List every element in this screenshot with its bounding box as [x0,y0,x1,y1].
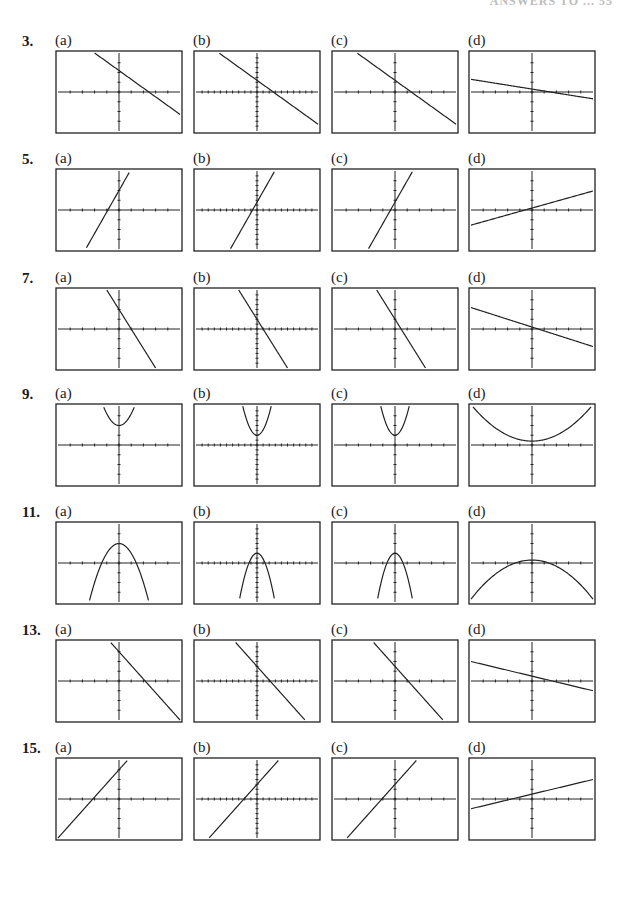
panel-label: (d) [468,740,486,755]
graph-window [193,639,321,723]
graph-panel: (a) [55,151,185,257]
problem-row: 7.(a)(b)(c)(d) [0,270,621,380]
graph-panel: (d) [468,151,598,257]
panel-label: (b) [193,740,211,755]
panel-label: (c) [331,270,348,285]
graph-panel: (c) [331,270,461,376]
panel-label: (c) [331,622,348,637]
graph-panel: (d) [468,386,598,492]
panel-label: (b) [193,33,211,48]
graph-panel: (d) [468,740,598,846]
panel-label: (a) [55,622,72,637]
graph-window [55,403,183,487]
panel-label: (b) [193,504,211,519]
panel-label: (c) [331,740,348,755]
panel-label: (b) [193,270,211,285]
graph-panel: (a) [55,740,185,846]
graph-panel: (d) [468,504,598,610]
graph-panel: (d) [468,622,598,728]
graph-panel: (c) [331,622,461,728]
panel-label: (d) [468,151,486,166]
graph-window [331,639,459,723]
panel-label: (a) [55,151,72,166]
graph-window [468,287,596,371]
panel-label: (d) [468,270,486,285]
graph-window [55,50,183,134]
graph-panel: (b) [193,151,323,257]
panel-label: (d) [468,622,486,637]
graph-window [331,403,459,487]
graph-window [331,521,459,605]
graph-window [193,403,321,487]
graph-window [193,287,321,371]
graph-panel: (b) [193,504,323,610]
graph-window [468,757,596,841]
problem-row: 15.(a)(b)(c)(d) [0,740,621,850]
graph-panel: (c) [331,740,461,846]
graph-window [468,50,596,134]
problem-number: 11. [22,504,40,521]
graph-window [193,521,321,605]
graph-window [55,757,183,841]
problem-number: 13. [22,622,41,639]
problem-number: 15. [22,740,41,757]
problem-number: 5. [22,151,33,168]
graph-window [468,168,596,252]
graph-panel: (b) [193,33,323,139]
problem-row: 3.(a)(b)(c)(d) [0,33,621,143]
graph-panel: (c) [331,151,461,257]
graph-window [193,168,321,252]
panel-label: (a) [55,740,72,755]
panel-label: (a) [55,504,72,519]
panel-label: (b) [193,386,211,401]
graph-panel: (d) [468,33,598,139]
problem-row: 5.(a)(b)(c)(d) [0,151,621,261]
graph-window [193,757,321,841]
graph-panel: (b) [193,622,323,728]
panel-label: (d) [468,386,486,401]
graph-window [331,287,459,371]
graph-panel: (a) [55,622,185,728]
graph-window [55,639,183,723]
graph-window [331,50,459,134]
panel-label: (c) [331,151,348,166]
panel-label: (b) [193,622,211,637]
panel-label: (a) [55,386,72,401]
graph-window [55,521,183,605]
panel-label: (b) [193,151,211,166]
graph-window [331,168,459,252]
graph-window [468,639,596,723]
graph-panel: (b) [193,270,323,376]
problem-row: 9.(a)(b)(c)(d) [0,386,621,496]
problem-row: 13.(a)(b)(c)(d) [0,622,621,732]
graph-window [331,757,459,841]
panel-label: (a) [55,270,72,285]
graph-panel: (c) [331,504,461,610]
graph-panel: (a) [55,386,185,492]
graph-panel: (a) [55,33,185,139]
page-header: ANSWERS TO ... 55 [490,0,613,9]
graph-panel: (b) [193,740,323,846]
panel-label: (c) [331,504,348,519]
graph-window [55,287,183,371]
graph-panel: (a) [55,504,185,610]
panel-label: (c) [331,386,348,401]
graph-window [55,168,183,252]
problem-number: 9. [22,386,33,403]
panel-label: (d) [468,33,486,48]
graph-window [193,50,321,134]
graph-panel: (d) [468,270,598,376]
graph-window [468,403,596,487]
panel-label: (d) [468,504,486,519]
problem-number: 7. [22,270,33,287]
graph-panel: (a) [55,270,185,376]
graph-panel: (b) [193,386,323,492]
graph-window [468,521,596,605]
problem-number: 3. [22,33,33,50]
problem-row: 11.(a)(b)(c)(d) [0,504,621,614]
panel-label: (c) [331,33,348,48]
graph-panel: (c) [331,33,461,139]
graph-panel: (c) [331,386,461,492]
panel-label: (a) [55,33,72,48]
